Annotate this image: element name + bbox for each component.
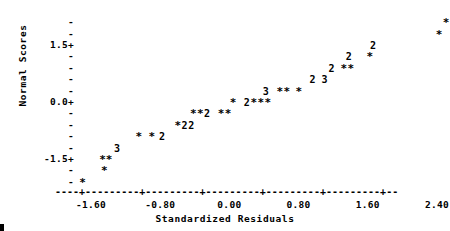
data-point: ** bbox=[99, 155, 112, 165]
data-point: * bbox=[436, 30, 443, 40]
data-point: * bbox=[367, 52, 374, 62]
data-point: 3 bbox=[114, 144, 120, 154]
data-point: 2 bbox=[181, 121, 187, 131]
x-tick-label: -1.60 bbox=[76, 199, 106, 211]
data-point: 2 bbox=[188, 121, 194, 131]
x-tick-label: 2.40 bbox=[425, 199, 449, 211]
x-axis-tick-labels: -1.60-0.800.000.801.602.40 bbox=[0, 199, 450, 213]
data-point: 2 bbox=[309, 75, 315, 85]
data-point: * bbox=[230, 98, 237, 108]
data-point: * bbox=[101, 166, 108, 176]
data-point: 2 bbox=[159, 132, 165, 142]
x-tick-label: 0.80 bbox=[287, 199, 311, 211]
data-point: * bbox=[190, 109, 197, 119]
data-point: * bbox=[251, 98, 258, 108]
x-axis-line: ----+---------+---------+---------+-----… bbox=[55, 186, 398, 198]
data-point: 2 bbox=[346, 52, 352, 62]
data-point: * bbox=[348, 64, 355, 74]
data-point: * bbox=[283, 87, 290, 97]
data-point: 2 bbox=[328, 64, 334, 74]
data-point: 2 bbox=[244, 98, 250, 108]
data-points-layer: ****3**2*22**2***2***3***232**2*2** bbox=[0, 0, 450, 190]
data-point: * bbox=[264, 98, 271, 108]
data-point: * bbox=[296, 87, 303, 97]
x-tick-label: 1.60 bbox=[356, 199, 380, 211]
x-axis-title: Standardized Residuals bbox=[0, 213, 450, 224]
data-point: * bbox=[225, 109, 232, 119]
corner-mark bbox=[0, 224, 4, 231]
data-point: * bbox=[341, 64, 348, 74]
x-tick-label: -0.80 bbox=[145, 199, 175, 211]
data-point: * bbox=[197, 109, 204, 119]
data-point: * bbox=[218, 109, 225, 119]
data-point: 3 bbox=[263, 87, 269, 97]
data-point: 2 bbox=[204, 109, 210, 119]
x-tick-label: 0.00 bbox=[217, 199, 241, 211]
data-point: * bbox=[258, 98, 265, 108]
normal-probability-plot: Normal Scores --1.5+----0.0+-----1.5+-- … bbox=[0, 0, 450, 231]
data-point: * bbox=[149, 132, 156, 142]
data-point: * bbox=[175, 121, 182, 131]
data-point: * bbox=[443, 18, 450, 28]
data-point: * bbox=[136, 132, 143, 142]
data-point: 3 bbox=[322, 75, 328, 85]
data-point: * bbox=[277, 87, 284, 97]
data-point: 2 bbox=[370, 41, 376, 51]
